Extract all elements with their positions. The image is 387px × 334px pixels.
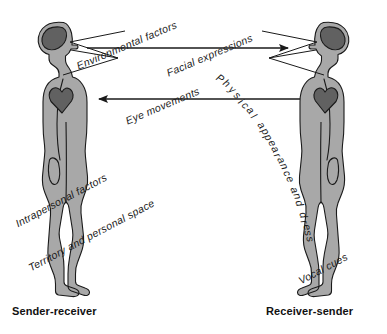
- diagram-canvas: Environmental factors Facial expressions…: [0, 0, 387, 334]
- bottom-label-receiver-sender: Receiver-sender: [266, 305, 353, 317]
- left-figure-hand: [48, 158, 59, 185]
- left-figure-body: [38, 22, 89, 296]
- figures-and-arrows-layer: [0, 0, 387, 334]
- bottom-label-sender-receiver: Sender-receiver: [12, 305, 97, 317]
- right-figure: [262, 22, 349, 296]
- right-figure-hand: [327, 158, 338, 185]
- right-figure-body: [298, 22, 349, 296]
- left-figure: [38, 22, 125, 296]
